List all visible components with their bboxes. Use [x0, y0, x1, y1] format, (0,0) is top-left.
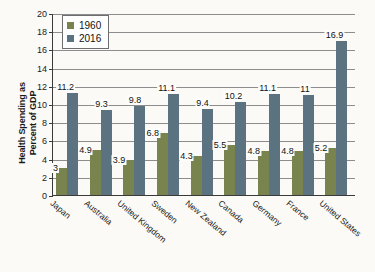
y-tick-label: 20: [37, 9, 47, 19]
grouped-bar-chart: Health Spending as Percent of GDP 024681…: [0, 0, 375, 272]
y-tick-label: 4: [42, 155, 47, 165]
y-tick-label: 6: [42, 136, 47, 146]
bar-group: 5.510.2: [221, 14, 255, 195]
legend-entry-2016: 2016: [67, 32, 101, 45]
bar-2016: [134, 106, 145, 195]
x-axis-label: France: [284, 198, 311, 223]
y-tick-label: 16: [37, 45, 47, 55]
x-axis-label: Sweden: [150, 198, 180, 225]
y-axis-title-line-2: Percent of GDP: [28, 33, 39, 213]
data-label-2016: 10.2: [224, 91, 244, 101]
y-tick-label: 14: [37, 64, 47, 74]
y-axis-title: Health Spending as Percent of GDP: [17, 33, 39, 213]
data-label-2016: 11: [299, 84, 310, 94]
bar-1960: [191, 156, 202, 195]
data-label-1960: 4.3: [179, 151, 194, 161]
data-label-1960: 3: [52, 163, 59, 173]
bar-group: 4.811: [289, 14, 323, 195]
bar-2016: [67, 93, 78, 195]
bar-2016: [168, 94, 179, 195]
x-axis-label: Canada: [217, 198, 246, 225]
bar-group: 4.811.1: [255, 14, 289, 195]
y-tick-label: 8: [42, 118, 47, 128]
x-axis-label: Germany: [251, 198, 284, 228]
data-label-2016: 16.9: [325, 30, 345, 40]
y-tick-mark: [49, 196, 53, 197]
data-label-1960: 5.2: [314, 143, 329, 153]
bar-group: 4.39.4: [188, 14, 222, 195]
data-label-1960: 3.9: [112, 155, 127, 165]
data-label-1960: 4.8: [280, 146, 295, 156]
bar-1960: [123, 160, 134, 195]
bar-group: 6.811.1: [154, 14, 188, 195]
x-axis-label: Japan: [49, 198, 73, 221]
bar-2016: [336, 41, 347, 195]
y-tick-label: 2: [42, 173, 47, 183]
data-label-2016: 11.1: [258, 83, 277, 93]
bar-2016: [303, 95, 314, 195]
legend-entry-1960: 1960: [67, 19, 101, 32]
data-label-1960: 5.5: [213, 140, 228, 150]
data-label-2016: 9.3: [94, 99, 109, 109]
data-label-1960: 4.9: [78, 145, 93, 155]
data-label-1960: 4.8: [246, 146, 261, 156]
x-axis-label: United States: [318, 198, 364, 238]
bar-1960: [157, 133, 168, 195]
data-label-2016: 11.2: [56, 82, 75, 92]
data-label-2016: 9.8: [128, 95, 143, 105]
legend-swatch-1960: [67, 22, 74, 29]
y-axis-title-line-1: Health Spending as: [17, 33, 28, 213]
x-axis-labels: JapanAustraliaUnited KingdomSwedenNew Ze…: [52, 198, 355, 272]
chart-legend: 1960 2016: [62, 15, 109, 49]
data-label-2016: 9.4: [195, 98, 210, 108]
legend-swatch-2016: [67, 35, 74, 42]
data-label-1960: 6.8: [145, 128, 160, 138]
bar-2016: [202, 109, 213, 195]
bar-group: 5.216.9: [322, 14, 356, 195]
x-axis-label: Australia: [82, 198, 114, 227]
legend-label-2016: 2016: [79, 33, 101, 44]
bar-2016: [235, 102, 246, 195]
bar-group: 3.99.8: [120, 14, 154, 195]
y-tick-label: 0: [42, 191, 47, 201]
bar-1960: [224, 145, 235, 195]
y-tick-label: 12: [37, 82, 47, 92]
bar-1960: [258, 151, 269, 195]
legend-label-1960: 1960: [79, 20, 101, 31]
y-tick-label: 18: [37, 27, 47, 37]
bar-1960: [292, 151, 303, 195]
bar-2016: [101, 110, 112, 195]
y-tick-label: 10: [37, 100, 47, 110]
bar-1960: [90, 150, 101, 195]
bar-1960: [325, 148, 336, 195]
bar-2016: [269, 94, 280, 195]
data-label-2016: 11.1: [157, 83, 176, 93]
